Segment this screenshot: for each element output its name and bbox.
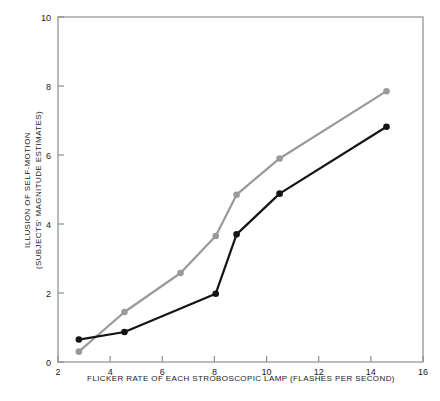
x-tick-label-16: 16	[418, 367, 428, 377]
data-point-upper-gray-series-5	[276, 155, 283, 162]
y-axis-label-line2: (SUBJECTS' MAGNITUDE ESTIMATES)	[34, 111, 43, 269]
data-point-lower-black-series-3	[233, 231, 240, 238]
x-axis-label: FLICKER RATE OF EACH STROBOSCOPIC LAMP (…	[87, 374, 395, 383]
x-tick-label-2: 2	[55, 367, 60, 377]
chart-background	[0, 0, 440, 401]
data-point-lower-black-series-2	[212, 290, 219, 297]
data-point-upper-gray-series-3	[212, 233, 219, 240]
data-point-upper-gray-series-1	[121, 309, 128, 316]
y-tick-label-10: 10	[41, 13, 51, 23]
chart-figure: 246810121416 0246810 FLICKER RATE OF EAC…	[0, 0, 440, 401]
data-point-upper-gray-series-6	[383, 88, 390, 95]
y-tick-label-8: 8	[46, 82, 51, 92]
data-point-upper-gray-series-4	[233, 191, 240, 198]
data-point-upper-gray-series-2	[177, 270, 184, 277]
y-tick-label-2: 2	[46, 289, 51, 299]
data-point-lower-black-series-0	[76, 336, 83, 343]
data-point-lower-black-series-4	[276, 190, 283, 197]
y-tick-label-0: 0	[46, 358, 51, 368]
data-point-upper-gray-series-0	[76, 348, 83, 355]
y-tick-label-6: 6	[46, 151, 51, 161]
y-axis-label-line1: ILLUSION OF SELF-MOTION	[23, 132, 32, 248]
y-tick-label-4: 4	[46, 220, 51, 230]
data-point-lower-black-series-5	[383, 123, 390, 130]
data-point-lower-black-series-1	[121, 329, 128, 336]
